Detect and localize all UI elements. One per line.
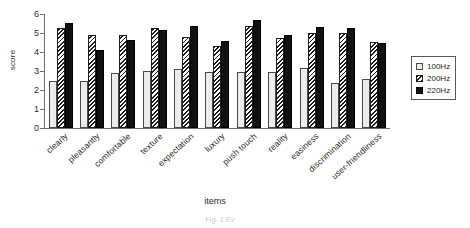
y-tick-label: 0 bbox=[34, 123, 39, 133]
bar-220hz-push-touch bbox=[253, 20, 261, 128]
legend-swatch-icon bbox=[416, 63, 423, 70]
bar-100hz-comfortable bbox=[111, 73, 119, 128]
bar-200hz-push-touch bbox=[245, 26, 253, 128]
y-tick-label: 3 bbox=[34, 66, 39, 76]
bar-200hz-discrimination bbox=[339, 33, 347, 128]
y-tick-label: 5 bbox=[34, 28, 39, 38]
bar-200hz-pleasantly bbox=[88, 35, 96, 128]
legend-item-200hz[interactable]: 200Hz bbox=[416, 72, 450, 84]
y-axis-title: score bbox=[8, 40, 17, 80]
bar-200hz-texture bbox=[151, 28, 159, 128]
bar-group bbox=[45, 14, 76, 128]
bar-100hz-expectation bbox=[174, 69, 182, 128]
x-category-label: luxury bbox=[203, 131, 227, 154]
x-axis-line bbox=[44, 128, 390, 129]
bar-200hz-luxury bbox=[213, 46, 221, 128]
bar-220hz-comfortable bbox=[127, 40, 135, 128]
bar-100hz-push-touch bbox=[237, 72, 245, 128]
y-tick-label: 4 bbox=[34, 47, 39, 57]
bar-200hz-easiness bbox=[308, 33, 316, 128]
bar-220hz-expectation bbox=[190, 26, 198, 128]
bar-100hz-discrimination bbox=[331, 83, 339, 128]
bar-group bbox=[202, 14, 233, 128]
bar-100hz-clearly bbox=[49, 81, 57, 128]
x-category-label: reality bbox=[266, 131, 290, 154]
bar-group bbox=[233, 14, 264, 128]
legend-swatch-icon bbox=[416, 75, 423, 82]
bar-220hz-reality bbox=[284, 35, 292, 128]
chart-legend: 100Hz200Hz220Hz bbox=[411, 56, 456, 100]
bar-200hz-clearly bbox=[57, 28, 65, 128]
x-category-label: texture bbox=[138, 131, 165, 156]
bar-group bbox=[327, 14, 358, 128]
bar-group bbox=[108, 14, 139, 128]
bar-220hz-discrimination bbox=[347, 28, 355, 128]
bar-100hz-pleasantly bbox=[80, 81, 88, 128]
bar-220hz-pleasantly bbox=[96, 50, 104, 128]
bar-100hz-easiness bbox=[300, 68, 308, 128]
bar-group bbox=[265, 14, 296, 128]
x-axis-title: items bbox=[0, 196, 430, 206]
bar-220hz-luxury bbox=[221, 41, 229, 128]
bar-100hz-texture bbox=[143, 71, 151, 128]
legend-item-220hz[interactable]: 220Hz bbox=[416, 84, 450, 96]
x-axis-category-labels: clearlypleasantlycomfortabletextureexpec… bbox=[44, 131, 390, 191]
bar-200hz-reality bbox=[276, 38, 284, 128]
y-tick-mark bbox=[40, 128, 45, 129]
bar-group bbox=[359, 14, 390, 128]
plot-area: 0123456 bbox=[44, 14, 390, 129]
bar-200hz-comfortable bbox=[119, 35, 127, 128]
bar-220hz-user-friendliness bbox=[378, 43, 386, 129]
legend-label: 100Hz bbox=[427, 62, 450, 71]
y-tick-label: 1 bbox=[34, 104, 39, 114]
x-category-label: clearly bbox=[45, 131, 70, 155]
legend-label: 200Hz bbox=[427, 74, 450, 83]
bar-100hz-luxury bbox=[205, 72, 213, 128]
legend-label: 220Hz bbox=[427, 86, 450, 95]
bar-220hz-texture bbox=[159, 30, 167, 128]
y-tick-label: 6 bbox=[34, 9, 39, 19]
bar-groups bbox=[45, 14, 390, 128]
bar-group bbox=[76, 14, 107, 128]
bar-220hz-easiness bbox=[316, 27, 324, 128]
legend-swatch-icon bbox=[416, 87, 423, 94]
chart-figure: score 0123456 clearlypleasantlycomfortab… bbox=[0, 0, 470, 228]
bar-220hz-clearly bbox=[65, 23, 73, 128]
figure-caption: Fig. 1 Ev bbox=[0, 215, 440, 226]
y-tick-label: 2 bbox=[34, 85, 39, 95]
legend-item-100hz[interactable]: 100Hz bbox=[416, 60, 450, 72]
bar-100hz-reality bbox=[268, 72, 276, 128]
bar-200hz-user-friendliness bbox=[370, 42, 378, 128]
bar-100hz-user-friendliness bbox=[362, 79, 370, 128]
bar-group bbox=[296, 14, 327, 128]
bar-200hz-expectation bbox=[182, 37, 190, 128]
bar-group bbox=[139, 14, 170, 128]
bar-group bbox=[170, 14, 201, 128]
